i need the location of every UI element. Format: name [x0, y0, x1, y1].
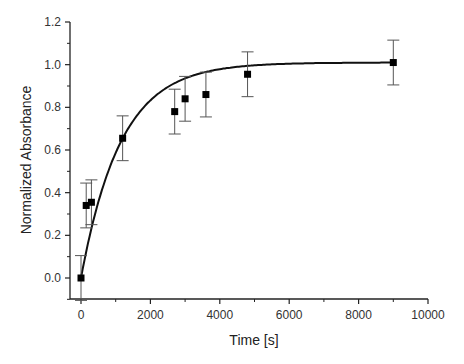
data-point — [179, 76, 191, 121]
y-tick-label: 0.6 — [44, 143, 61, 157]
y-tick-label: 0.2 — [44, 228, 61, 242]
square-marker — [78, 275, 85, 282]
y-tick-label: 0.4 — [44, 186, 61, 200]
data-point — [169, 89, 181, 134]
square-marker — [171, 108, 178, 115]
data-point — [200, 72, 212, 117]
x-tick-label: 8000 — [345, 308, 372, 322]
x-tick-label: 2000 — [137, 308, 164, 322]
y-axis-title: Normalized Absorbance — [18, 85, 34, 234]
x-tick-label: 0 — [78, 308, 85, 322]
chart: 0.00.20.40.60.81.01.20200040006000800010… — [0, 0, 464, 364]
square-marker — [390, 59, 397, 66]
x-tick-label: 10000 — [411, 308, 445, 322]
square-marker — [182, 95, 189, 102]
y-tick-label: 0.8 — [44, 100, 61, 114]
data-point — [117, 116, 129, 161]
y-tick-label: 0.0 — [44, 271, 61, 285]
data-point — [75, 256, 87, 301]
square-marker — [202, 91, 209, 98]
y-tick-label: 1.2 — [44, 15, 61, 29]
square-marker — [88, 199, 95, 206]
square-marker — [244, 71, 251, 78]
x-tick-label: 6000 — [276, 308, 303, 322]
axes: 0.00.20.40.60.81.01.20200040006000800010… — [44, 15, 445, 322]
x-tick-label: 4000 — [206, 308, 233, 322]
square-marker — [119, 135, 126, 142]
data-points — [75, 40, 399, 300]
x-axis-title: Time [s] — [229, 332, 278, 348]
data-point — [242, 52, 254, 97]
y-tick-label: 1.0 — [44, 58, 61, 72]
fit-line — [81, 63, 393, 278]
fit-curve — [81, 63, 393, 278]
